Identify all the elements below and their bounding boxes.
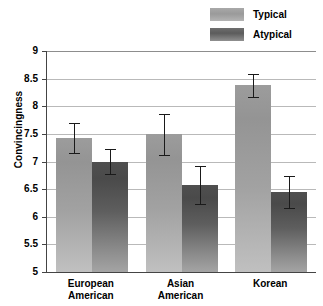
y-axis-tick	[42, 272, 47, 273]
error-bar-cap-upper	[159, 114, 170, 115]
bar-typical	[235, 85, 271, 272]
y-axis-tick-label: 9	[10, 46, 38, 56]
legend-item-typical: Typical	[210, 6, 320, 22]
y-axis-tick	[42, 217, 47, 218]
error-bar-line	[253, 74, 254, 97]
gridline	[47, 134, 316, 135]
y-axis-tick	[42, 189, 47, 190]
y-axis-tick-label: 7	[10, 157, 38, 167]
error-bar-cap-upper	[105, 149, 116, 150]
y-axis-tick-label: 7.5	[10, 129, 38, 139]
error-bar-cap-lower	[105, 174, 116, 175]
y-axis-tick-label: 6.5	[10, 184, 38, 194]
y-axis-tick-label: 8.5	[10, 74, 38, 84]
error-bar-cap-upper	[284, 176, 295, 177]
gridline	[47, 79, 316, 80]
y-axis-tick	[42, 106, 47, 107]
y-axis-tick	[42, 51, 47, 52]
x-axis-tick-label: Korean	[215, 278, 323, 290]
error-bar-line	[74, 123, 75, 153]
y-axis-tick-label: 5.5	[10, 239, 38, 249]
bar-typical	[56, 138, 92, 272]
gridline	[47, 106, 316, 107]
bar-chart: Typical Atypical Convincingness 98.587.5…	[0, 0, 323, 306]
legend-swatch-typical-icon	[210, 8, 244, 21]
error-bar-cap-lower	[159, 155, 170, 156]
error-bar-line	[164, 114, 165, 155]
error-bar-line	[289, 176, 290, 208]
y-axis-tick	[42, 162, 47, 163]
bar-atypical	[92, 162, 128, 273]
legend-label-atypical: Atypical	[253, 28, 292, 41]
error-bar-cap-lower	[69, 153, 80, 154]
y-axis-tick-label: 6	[10, 212, 38, 222]
y-axis-tick-label: 8	[10, 101, 38, 111]
y-axis-tick	[42, 244, 47, 245]
error-bar-line	[110, 149, 111, 174]
chart-legend: Typical Atypical	[210, 6, 320, 46]
error-bar-cap-upper	[248, 74, 259, 75]
error-bar-cap-lower	[248, 97, 259, 98]
error-bar-line	[200, 166, 201, 204]
y-axis-tick-label: 5	[10, 267, 38, 277]
legend-swatch-atypical-icon	[210, 28, 244, 41]
error-bar-cap-upper	[69, 123, 80, 124]
error-bar-cap-lower	[195, 204, 206, 205]
gridline	[47, 51, 316, 52]
error-bar-cap-upper	[195, 166, 206, 167]
legend-label-typical: Typical	[253, 8, 287, 21]
y-axis-tick	[42, 79, 47, 80]
y-axis-tick	[42, 134, 47, 135]
error-bar-cap-lower	[284, 208, 295, 209]
plot-area	[46, 51, 316, 273]
legend-item-atypical: Atypical	[210, 26, 320, 42]
